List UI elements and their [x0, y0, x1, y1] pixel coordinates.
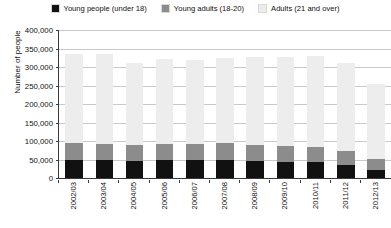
x-axis-tick-label: 2008/09	[250, 182, 259, 209]
x-axis-tick-mark	[330, 180, 331, 183]
y-axis-tick-label: 100,000	[25, 137, 53, 146]
x-axis-tick-mark	[179, 180, 180, 183]
y-axis-tick-labels: 400,000350,000300,000250,000200,000150,0…	[0, 0, 58, 228]
bar-segment	[96, 160, 114, 178]
bar-segment	[126, 161, 144, 178]
bar-segment	[367, 84, 385, 159]
bar-segment	[246, 57, 264, 145]
x-axis-tick-slot: 2012/13	[360, 180, 390, 228]
bar-segment	[126, 145, 144, 161]
y-axis-tick-mark	[56, 178, 59, 179]
bar-segment	[337, 63, 355, 151]
y-axis-tick-label: 300,000	[25, 63, 53, 72]
legend-label-adults: Adults (21 and over)	[271, 4, 339, 13]
x-axis-tick-mark	[58, 180, 59, 183]
x-axis-tick-slot: 2004/05	[118, 180, 148, 228]
x-axis-tick-label: 2012/13	[370, 182, 379, 209]
y-axis-tick-label: 400,000	[25, 26, 53, 35]
legend-label-young-adults: Young adults (18-20)	[174, 4, 244, 13]
bar-segment	[216, 143, 234, 160]
y-axis-tick-label: 250,000	[25, 81, 53, 90]
bar-segment	[246, 145, 264, 161]
y-axis-tick-label: 150,000	[25, 118, 53, 127]
stacked-bar	[156, 59, 174, 178]
bar-segment	[65, 143, 83, 160]
legend-swatch-adults	[258, 4, 267, 13]
stacked-bar	[126, 63, 144, 178]
bar-slot	[59, 30, 89, 178]
bar-segment	[337, 165, 355, 178]
bar-segment	[156, 160, 174, 178]
bar-slot	[180, 30, 210, 178]
legend-swatch-young-adults	[161, 4, 170, 13]
stacked-bar	[96, 54, 114, 178]
bar-segment	[156, 59, 174, 144]
x-axis-tick-label: 2006/07	[189, 182, 198, 209]
bar-slot	[331, 30, 361, 178]
y-axis-tick-label: 350,000	[25, 44, 53, 53]
stacked-bar	[337, 63, 355, 178]
bar-segment	[367, 159, 385, 170]
bar-slot	[210, 30, 240, 178]
y-axis-tick-label: 0	[49, 174, 53, 183]
bar-segment	[96, 144, 114, 160]
x-axis-tick-slot: 2009/10	[269, 180, 299, 228]
x-axis-tick-slot: 2003/04	[88, 180, 118, 228]
bar-segment	[126, 63, 144, 145]
x-axis-tick-slot: 2008/09	[239, 180, 269, 228]
bar-segment	[186, 60, 204, 144]
x-axis-tick-labels: 2002/032003/042004/052005/062006/072007/…	[58, 180, 390, 228]
x-axis-tick-label: 2004/05	[129, 182, 138, 209]
bar-slot	[119, 30, 149, 178]
bar-segment	[367, 170, 385, 178]
stacked-bar	[367, 84, 385, 178]
x-axis-tick-slot: 2006/07	[179, 180, 209, 228]
x-axis-tick-mark	[149, 180, 150, 183]
bar-segment	[216, 58, 234, 143]
stacked-bar	[277, 57, 295, 178]
bar-segment	[65, 160, 83, 178]
bar-segment	[307, 56, 325, 147]
bar-slot	[270, 30, 300, 178]
bar-segment	[307, 147, 325, 163]
bar-segment	[307, 162, 325, 178]
stacked-bar	[246, 57, 264, 178]
x-axis-tick-label: 2002/03	[69, 182, 78, 209]
x-axis-tick-slot: 2002/03	[58, 180, 88, 228]
bar-series-container	[59, 30, 391, 178]
x-axis-tick-label: 2005/06	[159, 182, 168, 209]
x-axis-tick-label: 2009/10	[280, 182, 289, 209]
x-axis-tick-mark	[88, 180, 89, 183]
x-axis-tick-label: 2011/12	[340, 182, 349, 209]
gridline	[59, 178, 391, 179]
bar-segment	[277, 146, 295, 162]
y-axis-tick-label: 50,000	[29, 155, 53, 164]
x-axis-tick-slot: 2011/12	[330, 180, 360, 228]
y-axis-tick-label: 200,000	[25, 100, 53, 109]
bar-segment	[186, 160, 204, 178]
bar-slot	[240, 30, 270, 178]
bar-slot	[150, 30, 180, 178]
stacked-bar	[186, 60, 204, 178]
bar-segment	[216, 160, 234, 178]
bar-segment	[246, 161, 264, 178]
x-axis-tick-mark	[239, 180, 240, 183]
x-axis-tick-mark	[209, 180, 210, 183]
legend-label-young-people: Young people (under 18)	[64, 4, 147, 13]
x-axis-tick-label: 2007/08	[220, 182, 229, 209]
chart-legend: Young people (under 18) Young adults (18…	[0, 0, 390, 17]
bar-segment	[186, 144, 204, 160]
stacked-bar	[216, 58, 234, 178]
bar-segment	[277, 57, 295, 146]
plot-area	[58, 30, 391, 178]
bar-slot	[301, 30, 331, 178]
x-axis-tick-label: 2003/04	[99, 182, 108, 209]
x-axis-tick-slot: 2005/06	[149, 180, 179, 228]
x-axis-tick-slot: 2007/08	[209, 180, 239, 228]
bar-slot	[361, 30, 391, 178]
x-axis-tick-slot: 2010/11	[300, 180, 330, 228]
bar-segment	[277, 162, 295, 178]
x-axis-tick-mark	[300, 180, 301, 183]
stacked-bar	[65, 54, 83, 178]
